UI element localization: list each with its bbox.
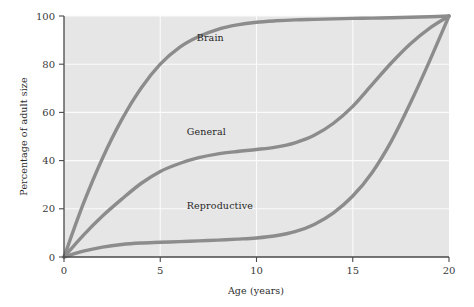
- x-axis-title: Age (years): [227, 285, 284, 296]
- growth-curves-chart: 020406080100 05101520 BrainGeneralReprod…: [0, 0, 474, 307]
- x-tick-label: 0: [61, 265, 67, 276]
- x-tick-label: 15: [346, 265, 359, 276]
- curve-label-reproductive: Reproductive: [187, 200, 254, 211]
- y-tick-label: 0: [49, 252, 55, 263]
- y-tick-label: 20: [42, 203, 55, 214]
- x-tick-label: 5: [157, 265, 163, 276]
- y-axis-title: Percentage of adult size: [18, 77, 29, 196]
- curve-label-general: General: [187, 126, 226, 137]
- y-tick-label: 100: [36, 11, 55, 22]
- y-tick-label: 40: [42, 155, 55, 166]
- y-tick-label: 60: [42, 107, 55, 118]
- x-tick-label: 10: [250, 265, 263, 276]
- x-tick-label: 20: [443, 265, 456, 276]
- curve-label-brain: Brain: [197, 32, 224, 43]
- y-tick-label: 80: [42, 59, 55, 70]
